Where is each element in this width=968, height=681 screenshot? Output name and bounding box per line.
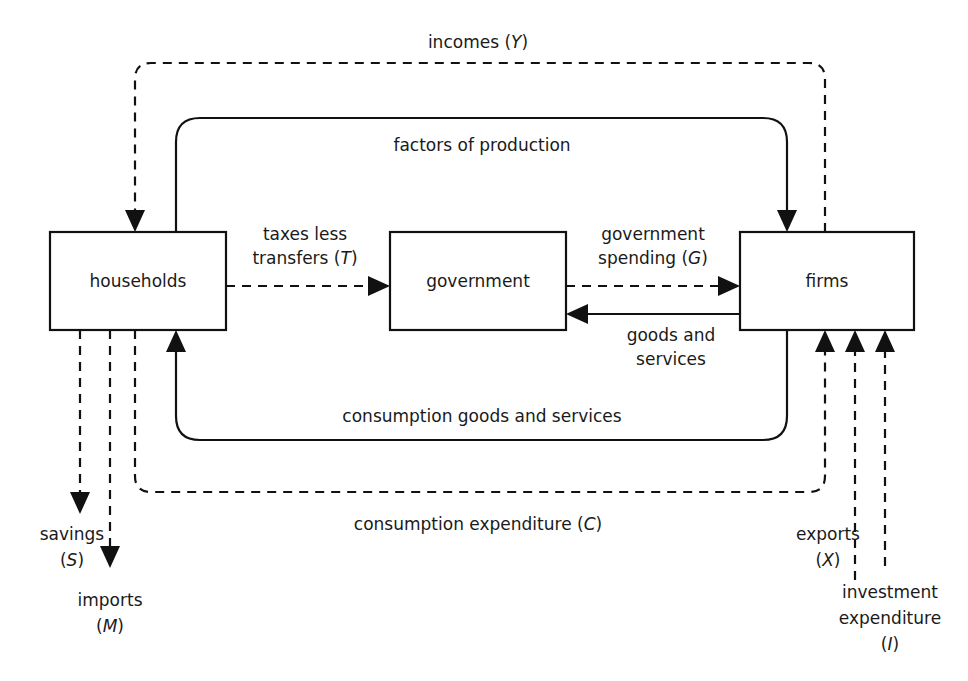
- node-government[interactable]: government: [390, 232, 566, 330]
- exports-label-symbol: (X): [816, 550, 841, 570]
- flow-savings: savings (S): [40, 330, 105, 570]
- flow-goods-and-services: goods and services: [566, 304, 740, 369]
- factors-of-production-arrowhead: [777, 210, 797, 232]
- government-spending-label-line1: government: [601, 224, 705, 244]
- goods-and-services-label-line1: goods and: [627, 325, 716, 345]
- imports-label-line1: imports: [78, 590, 143, 610]
- consumption-goods-and-services-label: consumption goods and services: [342, 406, 621, 426]
- taxes-less-transfers-label-line2: transfers (T): [252, 248, 357, 268]
- flow-imports: imports (M): [78, 330, 143, 636]
- consumption-goods-and-services-arrowhead: [166, 330, 186, 352]
- flow-taxes-less-transfers: taxes less transfers (T): [226, 224, 390, 296]
- investment-expenditure-label-line2: expenditure: [839, 608, 941, 628]
- taxes-less-transfers-label-line1: taxes less: [263, 224, 347, 244]
- investment-expenditure-label-symbol: (I): [881, 634, 899, 654]
- exports-arrowhead: [845, 330, 865, 352]
- flow-government-spending: government spending (G): [566, 224, 740, 296]
- node-households[interactable]: households: [50, 232, 226, 330]
- goods-and-services-arrowhead: [566, 304, 588, 324]
- investment-expenditure-label-line1: investment: [842, 582, 938, 602]
- consumption-expenditure-label: consumption expenditure (C): [354, 514, 602, 534]
- node-firms[interactable]: firms: [740, 232, 914, 330]
- circular-flow-diagram: incomes (Y) factors of production househ…: [0, 0, 968, 681]
- government-spending-arrowhead: [718, 276, 740, 296]
- government-label: government: [426, 271, 530, 291]
- savings-label-line1: savings: [40, 524, 105, 544]
- government-spending-label-line2: spending (G): [598, 248, 708, 268]
- goods-and-services-label-line2: services: [636, 349, 706, 369]
- firms-label: firms: [806, 271, 849, 291]
- consumption-expenditure-arrowhead: [815, 330, 835, 352]
- households-label: households: [90, 271, 187, 291]
- imports-label-symbol: (M): [96, 616, 124, 636]
- incomes-arrowhead: [125, 210, 145, 232]
- taxes-less-transfers-arrowhead: [368, 276, 390, 296]
- incomes-label: incomes (Y): [428, 32, 528, 52]
- flow-incomes: incomes (Y): [125, 32, 825, 232]
- savings-arrowhead: [70, 492, 90, 514]
- flow-consumption-expenditure: consumption expenditure (C): [135, 330, 835, 534]
- investment-expenditure-arrowhead: [875, 330, 895, 352]
- savings-label-symbol: (S): [60, 550, 84, 570]
- flow-exports: exports (X): [796, 330, 865, 580]
- imports-arrowhead: [100, 546, 120, 568]
- flow-factors-of-production: factors of production: [176, 118, 797, 232]
- exports-label-line1: exports: [796, 524, 860, 544]
- flow-consumption-goods-and-services: consumption goods and services: [166, 330, 787, 440]
- factors-of-production-label: factors of production: [393, 135, 570, 155]
